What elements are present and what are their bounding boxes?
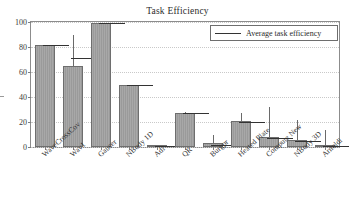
- bar[interactable]: [119, 85, 139, 148]
- y-axis-tick-label: 0: [23, 143, 27, 152]
- bar[interactable]: [35, 45, 55, 148]
- bar-group[interactable]: [143, 22, 171, 147]
- bar-group[interactable]: [171, 22, 199, 147]
- error-bar-whisker: [73, 35, 74, 66]
- chart-figure: Task Efficiency 020406080100 Average tas…: [0, 0, 355, 206]
- legend-line-swatch: [215, 33, 241, 34]
- bar-group[interactable]: [115, 22, 143, 147]
- bar-group[interactable]: [87, 22, 115, 147]
- y-axis-tick-label: 80: [19, 43, 27, 52]
- y-axis-tick-label: 20: [19, 118, 27, 127]
- chart-title: Task Efficiency: [0, 6, 355, 16]
- error-bar-whisker: [325, 130, 326, 146]
- legend-label: Average task efficiency: [246, 29, 321, 38]
- y-axis-tick-label: 40: [19, 93, 27, 102]
- y-axis-tick-mark: [28, 147, 31, 148]
- bar-group[interactable]: [31, 22, 59, 147]
- y-axis-tick-label: 100: [15, 18, 27, 27]
- axis-edge-tick: [0, 96, 4, 97]
- error-bar-whisker: [213, 135, 214, 144]
- bar[interactable]: [175, 113, 195, 147]
- bar[interactable]: [91, 23, 111, 147]
- chart-legend: Average task efficiency: [210, 25, 338, 41]
- y-axis-tick-label: 60: [19, 68, 27, 77]
- error-bar-whisker: [241, 113, 242, 121]
